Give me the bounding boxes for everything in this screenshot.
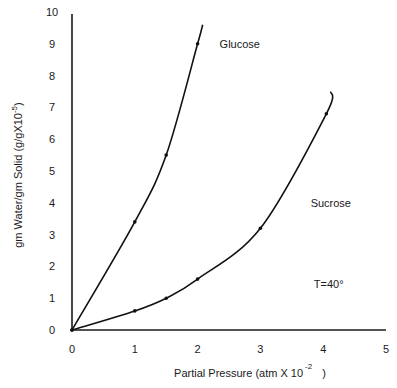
x-tick-label: 5	[383, 343, 389, 355]
y-tick-label: 9	[49, 38, 55, 50]
sucrose-data-point	[325, 112, 329, 116]
glucose-data-point	[133, 220, 137, 224]
sucrose-data-point	[196, 277, 200, 281]
annotation-glucose: Glucose	[220, 38, 260, 50]
x-axis-label-suffix: )	[322, 367, 326, 379]
annotation-t-40: T=40°	[314, 278, 344, 290]
y-tick-label: 0	[49, 324, 55, 336]
sucrose-data-point	[259, 226, 263, 230]
x-tick-label: 0	[69, 343, 75, 355]
y-axis-label-suffix: )	[12, 102, 24, 106]
y-tick-label: 1	[49, 292, 55, 304]
annotation-sucrose: Sucrose	[311, 197, 351, 209]
x-axis-label-exponent: -2	[305, 362, 313, 371]
y-tick-label: 3	[49, 229, 55, 241]
series-glucose	[70, 25, 202, 332]
x-tick-label: 3	[257, 343, 263, 355]
sorption-isotherm-chart: gm Water/gm Solid (g/gX10-5) 01234567891…	[0, 0, 397, 388]
y-tick-label: 5	[49, 165, 55, 177]
glucose-data-point	[196, 42, 200, 46]
series-sucrose	[70, 92, 333, 332]
x-tick-label: 4	[320, 343, 326, 355]
sucrose-curve	[72, 92, 333, 331]
sucrose-data-point	[70, 328, 74, 332]
y-axis-label: gm Water/gm Solid (g/gX10-5)	[10, 102, 24, 248]
y-tick-label: 8	[49, 70, 55, 82]
y-tick-label: 7	[49, 101, 55, 113]
y-tick-label: 6	[49, 133, 55, 145]
y-tick-label: 10	[46, 6, 58, 18]
sucrose-data-point	[133, 309, 137, 313]
x-tick-label: 2	[195, 343, 201, 355]
x-tick-label: 1	[132, 343, 138, 355]
glucose-curve	[72, 25, 203, 330]
sucrose-data-point	[164, 296, 168, 300]
y-tick-label: 2	[49, 260, 55, 272]
x-axis-label: Partial Pressure (atm X 10-2)	[174, 362, 326, 379]
y-tick-label: 4	[49, 197, 55, 209]
glucose-data-point	[164, 153, 168, 157]
